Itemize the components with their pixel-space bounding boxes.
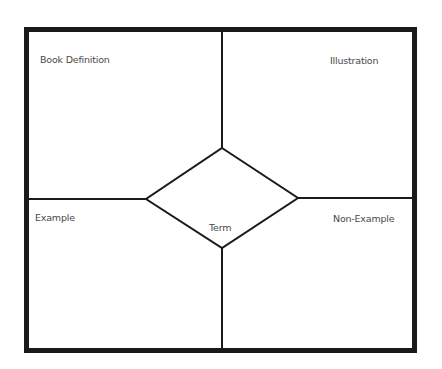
center-label-term: Term <box>209 222 231 233</box>
quadrant-label-non-example: Non-Example <box>333 213 394 224</box>
quadrant-label-book-definition: Book Definition <box>40 54 110 65</box>
term-diamond <box>146 148 298 248</box>
quadrant-label-illustration: Illustration <box>330 55 378 66</box>
quadrant-label-example: Example <box>35 212 75 223</box>
